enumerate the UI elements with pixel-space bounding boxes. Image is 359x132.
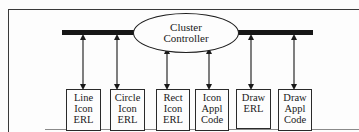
module-draw-appl-code: Draw Appl Code — [278, 89, 312, 131]
module-label-line: Icon — [118, 103, 137, 114]
module-label-line: Appl — [285, 103, 306, 114]
module-label-line: Circle — [115, 92, 141, 103]
module-draw-erl: Draw ERL — [236, 89, 271, 129]
module-rect-icon-erl: Rect Icon ERL — [156, 89, 190, 131]
module-label-line: Draw — [242, 92, 265, 103]
module-label-line: Line — [74, 92, 93, 103]
module-label-line: Icon — [164, 103, 183, 114]
module-label-line: ERL — [118, 114, 138, 125]
module-label-line: Rect — [163, 92, 182, 103]
module-icon-appl-code: Icon Appl Code — [195, 89, 229, 131]
module-label-line: ERL — [163, 114, 183, 125]
diagram-canvas: Cluster Controller Line Icon ERL Circle … — [0, 0, 359, 132]
module-circle-icon-erl: Circle Icon ERL — [110, 89, 145, 131]
module-label-line: Code — [284, 114, 306, 125]
module-label-line: Icon — [203, 92, 222, 103]
controller-label-line-2: Controller — [163, 33, 208, 44]
cluster-controller-node: Cluster Controller — [133, 13, 239, 53]
module-label-line: Draw — [283, 92, 306, 103]
module-line-icon-erl: Line Icon ERL — [66, 89, 101, 131]
module-label-line: ERL — [74, 114, 94, 125]
module-label-line: ERL — [244, 103, 264, 114]
module-label-line: Code — [201, 114, 223, 125]
module-label-line: Icon — [74, 103, 93, 114]
module-label-line: Appl — [202, 103, 223, 114]
